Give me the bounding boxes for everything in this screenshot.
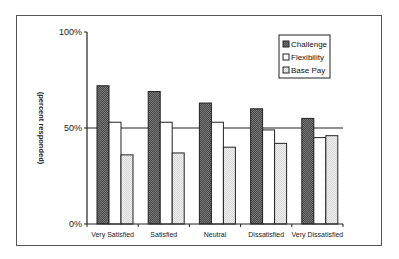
x-tick-label: Neutral — [204, 231, 227, 238]
bar-flexibility — [314, 138, 326, 224]
legend: ChallengeFlexibilityBase Pay — [279, 35, 330, 78]
bar-flexibility — [109, 122, 121, 224]
legend-swatch — [283, 54, 289, 60]
bar-flexibility — [263, 130, 275, 224]
x-tick-label: Very Dissatisfied — [292, 231, 344, 239]
legend-label: Flexibility — [291, 53, 324, 62]
x-tick-label: Satisfied — [150, 231, 177, 238]
bar-challenge — [199, 103, 211, 224]
bar-challenge — [251, 109, 263, 224]
bar-challenge — [97, 86, 109, 224]
bar-flexibility — [160, 122, 172, 224]
bar-base-pay — [121, 155, 133, 224]
bar-base-pay — [223, 147, 235, 224]
legend-swatch — [283, 67, 289, 73]
bar-challenge — [302, 118, 314, 224]
x-tick-label: Very Satisfied — [91, 231, 134, 239]
y-tick-label: 0% — [69, 219, 82, 229]
legend-label: Challenge — [291, 40, 328, 49]
y-tick-label: 50% — [64, 123, 82, 133]
x-tick-label: Dissatisfied — [248, 231, 284, 238]
bar-base-pay — [275, 143, 287, 224]
bar-challenge — [148, 92, 160, 224]
bar-base-pay — [326, 136, 338, 224]
bar-base-pay — [172, 153, 184, 224]
legend-label: Base Pay — [291, 66, 325, 75]
y-axis-label: (percent responded) — [37, 92, 46, 165]
bars-group — [87, 86, 343, 224]
y-tick-label: 100% — [59, 27, 82, 37]
legend-swatch — [283, 41, 289, 47]
bar-flexibility — [211, 122, 223, 224]
bar-chart: Very SatisfiedSatisfiedNeutralDissatisfi… — [0, 0, 399, 259]
